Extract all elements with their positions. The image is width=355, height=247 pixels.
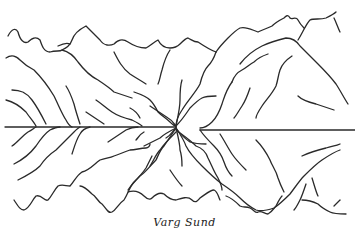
mountain-reflection (12, 127, 346, 214)
mountain-ridges (8, 12, 340, 52)
drawing-caption: Varg Sund (0, 216, 355, 229)
mountain-reflection-drawing (0, 0, 355, 247)
